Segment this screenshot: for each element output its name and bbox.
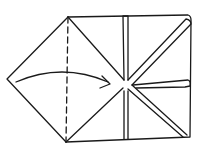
vertical-pleat xyxy=(123,16,128,139)
diagonal-top-left xyxy=(68,17,124,80)
origami-diagram xyxy=(0,0,197,160)
valley-fold-line xyxy=(66,17,68,142)
diagonal-bottom-left xyxy=(66,88,123,142)
left-flap xyxy=(7,17,68,142)
diagonal-pleat-upper xyxy=(128,19,191,85)
fold-arrow xyxy=(16,72,108,82)
arrow-head-icon xyxy=(100,76,110,88)
diagonal-pleat-lower xyxy=(128,85,187,137)
horizontal-pleat-right xyxy=(133,80,190,88)
